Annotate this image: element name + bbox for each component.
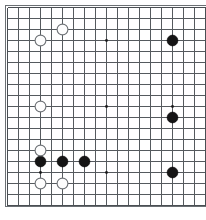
white-stone[interactable] xyxy=(57,24,68,35)
black-stone[interactable] xyxy=(35,156,46,167)
white-stone[interactable] xyxy=(35,101,46,112)
star-point xyxy=(105,105,108,108)
star-point xyxy=(39,171,42,174)
black-stone[interactable] xyxy=(167,167,178,178)
black-stone[interactable] xyxy=(79,156,90,167)
go-board-canvas[interactable] xyxy=(0,0,206,220)
white-stone[interactable] xyxy=(35,35,46,46)
white-stone[interactable] xyxy=(35,178,46,189)
black-stone[interactable] xyxy=(167,35,178,46)
black-stone[interactable] xyxy=(167,112,178,123)
star-point xyxy=(105,39,108,42)
white-stone[interactable] xyxy=(35,145,46,156)
go-board[interactable] xyxy=(0,0,206,220)
star-point xyxy=(105,171,108,174)
go-board-container xyxy=(0,0,206,220)
white-stone[interactable] xyxy=(57,178,68,189)
star-point xyxy=(171,105,174,108)
black-stone[interactable] xyxy=(57,156,68,167)
